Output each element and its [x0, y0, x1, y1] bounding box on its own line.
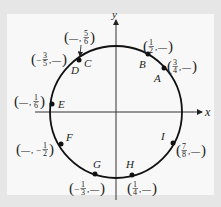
svg-text:,: , [49, 55, 51, 65]
svg-text:,: , [188, 146, 190, 156]
point-e-dot [50, 102, 55, 107]
coord-label-e: ( — , 1 6 ) [14, 93, 45, 110]
svg-text:4: 4 [133, 188, 137, 197]
svg-text:—: — [18, 97, 29, 107]
coord-label-h: ( 1 4 , — ) [127, 180, 157, 197]
svg-text:): ) [168, 38, 173, 55]
point-d-label: D [70, 64, 79, 76]
svg-text:,: , [79, 33, 81, 43]
coord-label-g: ( − 1 3 , — ) [69, 180, 105, 197]
svg-text:,: , [139, 184, 141, 194]
svg-text:(: ( [176, 142, 181, 159]
svg-text:): ) [40, 93, 45, 110]
coord-label-i: ( 7 8 , — ) [176, 142, 206, 159]
svg-text:—: — [141, 184, 152, 194]
svg-text:−: − [36, 55, 41, 65]
svg-text:8: 8 [182, 150, 186, 159]
point-cd-dot [77, 58, 82, 63]
coord-label-d: ( − 3 5 , — ) [31, 51, 67, 68]
point-g-label: G [93, 158, 101, 170]
svg-text:): ) [90, 29, 95, 46]
y-axis-label: y [111, 8, 117, 20]
c-pointer-arrow [80, 45, 81, 56]
coord-label-c: ( — , 5 6 ) [64, 29, 95, 46]
svg-text:3: 3 [81, 188, 85, 197]
svg-text:): ) [62, 51, 67, 68]
point-e-label: E [57, 98, 65, 110]
svg-text:—: — [68, 33, 79, 43]
svg-text:): ) [152, 180, 157, 197]
svg-text:,: , [179, 62, 181, 72]
svg-text:2: 2 [43, 149, 47, 158]
svg-text:—: — [20, 145, 31, 155]
svg-text:6: 6 [34, 101, 38, 110]
svg-text:2: 2 [149, 46, 153, 55]
svg-text:—: — [190, 146, 201, 156]
coord-label-f: ( — , − 1 2 ) [16, 141, 54, 158]
point-a-label: A [153, 72, 161, 84]
point-a-dot [162, 66, 167, 71]
svg-text:(: ( [167, 58, 172, 75]
point-c-label: C [84, 57, 92, 69]
svg-text:): ) [49, 141, 54, 158]
svg-text:,: , [155, 42, 157, 52]
svg-text:): ) [192, 58, 197, 75]
svg-text:−: − [36, 145, 41, 155]
svg-text:−: − [74, 184, 79, 194]
svg-text:): ) [100, 180, 105, 197]
svg-text:): ) [201, 142, 206, 159]
point-g-dot [93, 172, 98, 177]
point-b-label: B [139, 58, 146, 70]
point-i-label: I [160, 130, 166, 142]
point-i-dot [171, 141, 176, 146]
svg-text:6: 6 [84, 37, 88, 46]
coord-label-b: ( 1 2 , — ) [143, 38, 173, 55]
svg-text:(: ( [127, 180, 132, 197]
point-f-label: F [65, 131, 73, 143]
svg-text:—: — [157, 42, 168, 52]
svg-text:,: , [29, 97, 31, 107]
svg-text:—: — [181, 62, 192, 72]
svg-text:5: 5 [43, 59, 47, 68]
x-axis-label: x [204, 105, 211, 119]
svg-text:,: , [31, 145, 33, 155]
point-h-label: H [125, 158, 135, 170]
svg-text:—: — [51, 55, 62, 65]
point-h-dot [130, 173, 135, 178]
svg-text:4: 4 [173, 66, 177, 75]
svg-text:—: — [89, 184, 100, 194]
coord-label-a: ( 3 4 , — ) [167, 58, 197, 75]
unit-circle-diagram: x y A B C D E F G H I ( 1 2 , — ) ( 3 4 … [0, 0, 221, 207]
svg-text:,: , [87, 184, 89, 194]
svg-text:(: ( [143, 38, 148, 55]
point-f-dot [59, 142, 64, 147]
